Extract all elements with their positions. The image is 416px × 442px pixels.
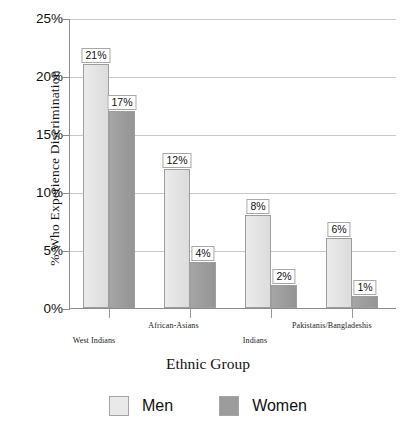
bar-chart: % Who Experience Discrimination 25% 20% …	[0, 0, 416, 442]
bar-men-pakistanis-bangladeshis[interactable]: 6%	[326, 238, 352, 308]
legend-item-women[interactable]: Women	[219, 396, 307, 416]
bar-value-men-west-indians: 21%	[81, 48, 110, 63]
bar-men-african-asians[interactable]: 12%	[164, 169, 190, 308]
category-tick-1	[190, 309, 191, 318]
bar-men-west-indians[interactable]: 21%	[83, 64, 109, 308]
y-tickmark-0	[63, 309, 70, 310]
y-tick-label-5: 5%	[19, 244, 63, 258]
bar-value-men-african-asians: 12%	[162, 153, 191, 168]
category-label-pakistanis-bangladeshis: Pakistanis/Bangladeshis	[292, 321, 416, 330]
y-axis-tick-labels: 25% 20% 15% 10% 5% 0%	[15, 0, 63, 442]
category-tick-2	[271, 309, 272, 318]
bar-women-indians[interactable]: 2%	[271, 285, 297, 308]
y-tick-label-25: 25%	[19, 12, 63, 26]
legend-label-men: Men	[142, 397, 173, 415]
legend-swatch-men-icon	[109, 396, 129, 416]
category-label-african-asians: African-Asians	[121, 321, 226, 330]
category-label-indians: Indians	[205, 336, 305, 345]
legend-item-men[interactable]: Men	[109, 396, 173, 416]
category-label-west-indians: West Indians	[44, 336, 144, 345]
bar-group-pakistanis-bangladeshis: 6% 1%	[326, 19, 381, 308]
legend-label-women: Women	[252, 397, 307, 415]
bar-group-west-indians: 21% 17%	[83, 19, 138, 308]
x-axis-line	[69, 308, 396, 309]
category-tick-0	[109, 309, 110, 318]
y-axis-line	[69, 19, 70, 309]
bar-group-african-asians: 12% 4%	[164, 19, 219, 308]
bar-value-women-pakistanis-bangladeshis: 1%	[353, 280, 376, 295]
legend-swatch-women-icon	[219, 396, 239, 416]
bar-women-west-indians[interactable]: 17%	[109, 111, 135, 308]
bar-value-women-african-asians: 4%	[191, 246, 214, 261]
chart-legend: Men Women	[0, 396, 416, 416]
bar-group-indians: 8% 2%	[245, 19, 300, 308]
x-axis-title: Ethnic Group	[0, 355, 416, 373]
bar-value-men-indians: 8%	[246, 199, 269, 214]
bar-value-women-indians: 2%	[272, 269, 295, 284]
y-tick-label-0: 0%	[19, 302, 63, 316]
bar-women-african-asians[interactable]: 4%	[190, 262, 216, 308]
y-tick-label-15: 15%	[19, 128, 63, 142]
bar-women-pakistanis-bangladeshis[interactable]: 1%	[352, 296, 378, 308]
bar-men-indians[interactable]: 8%	[245, 215, 271, 308]
bar-value-men-pakistanis-bangladeshis: 6%	[327, 222, 350, 237]
category-tick-3	[352, 309, 353, 318]
y-tick-label-20: 20%	[19, 70, 63, 84]
bar-value-women-west-indians: 17%	[107, 95, 136, 110]
plot-area: 21% 17% 12% 4% 8% 2%	[69, 19, 396, 309]
y-tick-label-10: 10%	[19, 186, 63, 200]
